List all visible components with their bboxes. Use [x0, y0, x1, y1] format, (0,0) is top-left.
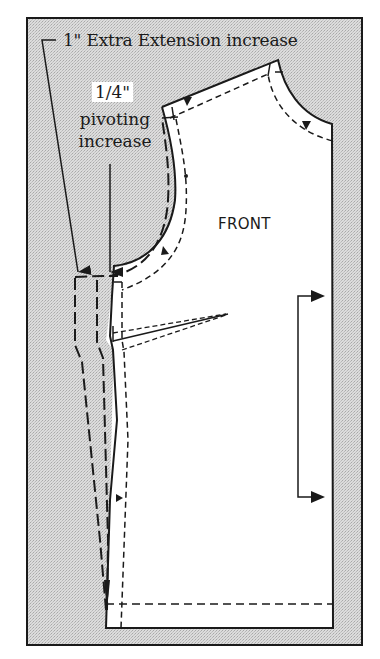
increase-label: increase [73, 130, 157, 152]
pivoting-label: pivoting [73, 108, 157, 130]
front-label: FRONT [218, 215, 271, 233]
seam-corner-tick [162, 117, 178, 118]
extra-extension-label: 1" Extra Extension increase [63, 30, 298, 50]
notch-dot [184, 174, 188, 178]
pattern-diagram [0, 0, 380, 659]
quarter-inch-label: 1/4" [92, 82, 133, 102]
pivoting-increase-label: pivoting increase [73, 108, 157, 152]
